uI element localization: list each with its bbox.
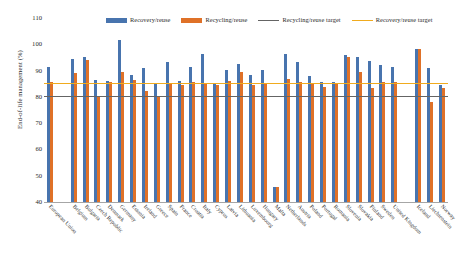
x-axis-tick-label: Portugal — [317, 203, 329, 265]
bar-recycling-reuse — [418, 49, 421, 202]
bar-group — [92, 18, 104, 202]
bar-group — [258, 18, 270, 202]
y-axis-tick-label: 100 — [22, 41, 42, 48]
bar-group — [198, 18, 210, 202]
bar-group — [293, 18, 305, 202]
bar-group — [163, 18, 175, 202]
bar-recycling-reuse — [109, 82, 112, 202]
bar-recycling-reuse — [252, 85, 255, 202]
x-axis-tick-label: Romania — [329, 203, 341, 265]
y-axis-tick-label: 40 — [22, 199, 42, 206]
bar-recycling-reuse — [371, 88, 374, 202]
bar-recycling-reuse — [287, 79, 290, 202]
x-axis-tick-label: Germany — [115, 203, 127, 265]
x-axis-tick-label: France — [175, 203, 187, 265]
bar-group — [282, 18, 294, 202]
bar-group — [222, 18, 234, 202]
bar-recycling-reuse — [157, 97, 160, 202]
bar-recycling-reuse — [133, 80, 136, 202]
x-tick-spacer — [56, 203, 68, 265]
y-axis-tick-label: 90 — [22, 67, 42, 74]
category-spacer — [400, 18, 412, 202]
bar-recycling-reuse — [97, 97, 100, 202]
x-axis-tick-label: Lithuania — [234, 203, 246, 265]
x-axis-tick-label: Netherlands — [282, 203, 294, 265]
x-tick-text: Norway — [439, 204, 456, 221]
category-spacer — [56, 18, 68, 202]
x-axis-tick-label: Iceland — [412, 203, 424, 265]
bar-recycling-reuse — [276, 187, 279, 202]
bar-recycling-reuse — [335, 83, 338, 202]
bar-group — [412, 18, 424, 202]
x-axis-tick-label: United Kingdom — [388, 203, 400, 265]
y-axis-tick-label: 80 — [22, 94, 42, 101]
bar-recycling-reuse — [347, 57, 350, 202]
bar-recycling-reuse — [311, 83, 314, 202]
bar-recycling-reuse — [430, 102, 433, 202]
x-axis-tick-label: Sweden — [377, 203, 389, 265]
bar-group — [377, 18, 389, 202]
x-tick-spacer — [400, 203, 412, 265]
x-axis-tick-label: Greece — [151, 203, 163, 265]
y-axis-tick-label: 70 — [22, 120, 42, 127]
x-axis-tick-label: Malta — [270, 203, 282, 265]
x-axis-ticks: European UnionBelgiumBulgariaCzech Repub… — [44, 203, 448, 265]
bar-group — [436, 18, 448, 202]
bar-group — [68, 18, 80, 202]
bar-group — [353, 18, 365, 202]
bar-recycling-reuse — [121, 72, 124, 202]
bar-group — [424, 18, 436, 202]
reference-line-recycling-reuse-target — [44, 96, 448, 97]
bar-recycling-reuse — [394, 82, 397, 202]
bar-recycling-reuse — [74, 73, 77, 202]
bar-group — [317, 18, 329, 202]
bar-recycling-reuse — [299, 82, 302, 202]
bar-recycling-reuse — [264, 84, 267, 202]
x-axis-tick-label: Austria — [293, 203, 305, 265]
x-axis-tick-label: Poland — [305, 203, 317, 265]
bar-recycling-reuse — [216, 85, 219, 202]
bar-recycling-reuse — [169, 84, 172, 202]
bar-group — [210, 18, 222, 202]
bar-recycling-reuse — [145, 91, 148, 202]
x-axis-tick-label: Denmark — [103, 203, 115, 265]
bar-group — [246, 18, 258, 202]
x-axis-tick-label: Ireland — [139, 203, 151, 265]
x-axis-tick-label: Italy — [198, 203, 210, 265]
x-axis-tick-label: Finland — [365, 203, 377, 265]
x-axis-tick-label: Estonia — [127, 203, 139, 265]
bar-group — [388, 18, 400, 202]
x-axis-tick-label: Luxembourg — [246, 203, 258, 265]
bar-group — [80, 18, 92, 202]
plot-area — [44, 18, 448, 202]
bar-group — [115, 18, 127, 202]
x-axis-tick-label: Slovenia — [341, 203, 353, 265]
x-axis-tick-label: Latvia — [222, 203, 234, 265]
bar-group — [151, 18, 163, 202]
bar-group — [103, 18, 115, 202]
bar-recycling-reuse — [228, 81, 231, 202]
bar-group-container — [44, 18, 448, 202]
bar-recycling-reuse — [240, 72, 243, 202]
bar-group — [365, 18, 377, 202]
x-axis-tick-label: Croatia — [187, 203, 199, 265]
bar-group — [139, 18, 151, 202]
reference-line-recovery-reuse-target — [44, 83, 448, 84]
bar-group — [127, 18, 139, 202]
bar-recycling-reuse — [323, 87, 326, 202]
x-axis-tick-label: Hungary — [258, 203, 270, 265]
x-axis-tick-label: Czech Republic — [92, 203, 104, 265]
x-axis-tick-label: Belgium — [68, 203, 80, 265]
y-axis-tick-label: 60 — [22, 146, 42, 153]
bar-recycling-reuse — [181, 85, 184, 202]
bar-group — [44, 18, 56, 202]
bar-recycling-reuse — [50, 82, 53, 202]
bar-group — [305, 18, 317, 202]
bar-group — [187, 18, 199, 202]
bar-recycling-reuse — [192, 82, 195, 202]
x-axis-tick-label: Bulgaria — [80, 203, 92, 265]
bar-group — [234, 18, 246, 202]
bar-recycling-reuse — [382, 82, 385, 202]
x-axis-tick-label: Norway — [436, 203, 448, 265]
